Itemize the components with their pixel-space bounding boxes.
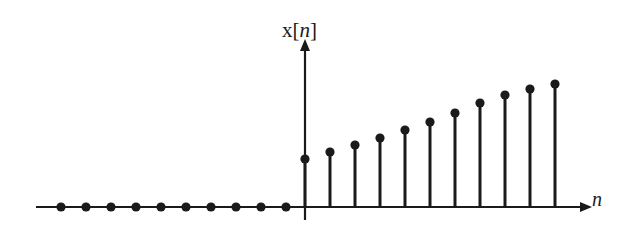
x-axis-arrowhead: [580, 202, 592, 212]
zero-sample-dot: [131, 202, 140, 211]
axes-group: [36, 39, 592, 220]
stem-lines-group: [300, 79, 559, 207]
zero-sample-dot: [256, 202, 265, 211]
x-axis-label: n: [592, 189, 602, 209]
figure-root: x[n] n: [0, 0, 624, 229]
stem-dot: [450, 108, 459, 117]
zero-sample-dot: [106, 202, 115, 211]
y-axis-label-text: x[n]: [282, 18, 317, 42]
stem-dot: [525, 84, 534, 93]
y-axis-label: x[n]: [282, 20, 317, 41]
zero-sample-dot: [156, 202, 165, 211]
stem-dot: [475, 98, 484, 107]
zero-sample-dot: [281, 202, 290, 211]
stem-dot: [400, 125, 409, 134]
zero-sample-dot: [206, 202, 215, 211]
stem-dot: [325, 147, 334, 156]
stem-dot: [425, 117, 434, 126]
zero-sample-dot: [56, 202, 65, 211]
stem-dot: [300, 154, 309, 163]
stem-dot: [350, 140, 359, 149]
stem-dot: [500, 90, 509, 99]
stem-dot: [375, 133, 384, 142]
zero-sample-dot: [81, 202, 90, 211]
zero-sample-dot: [231, 202, 240, 211]
zero-sample-dot: [181, 202, 190, 211]
stem-dot: [550, 79, 559, 88]
